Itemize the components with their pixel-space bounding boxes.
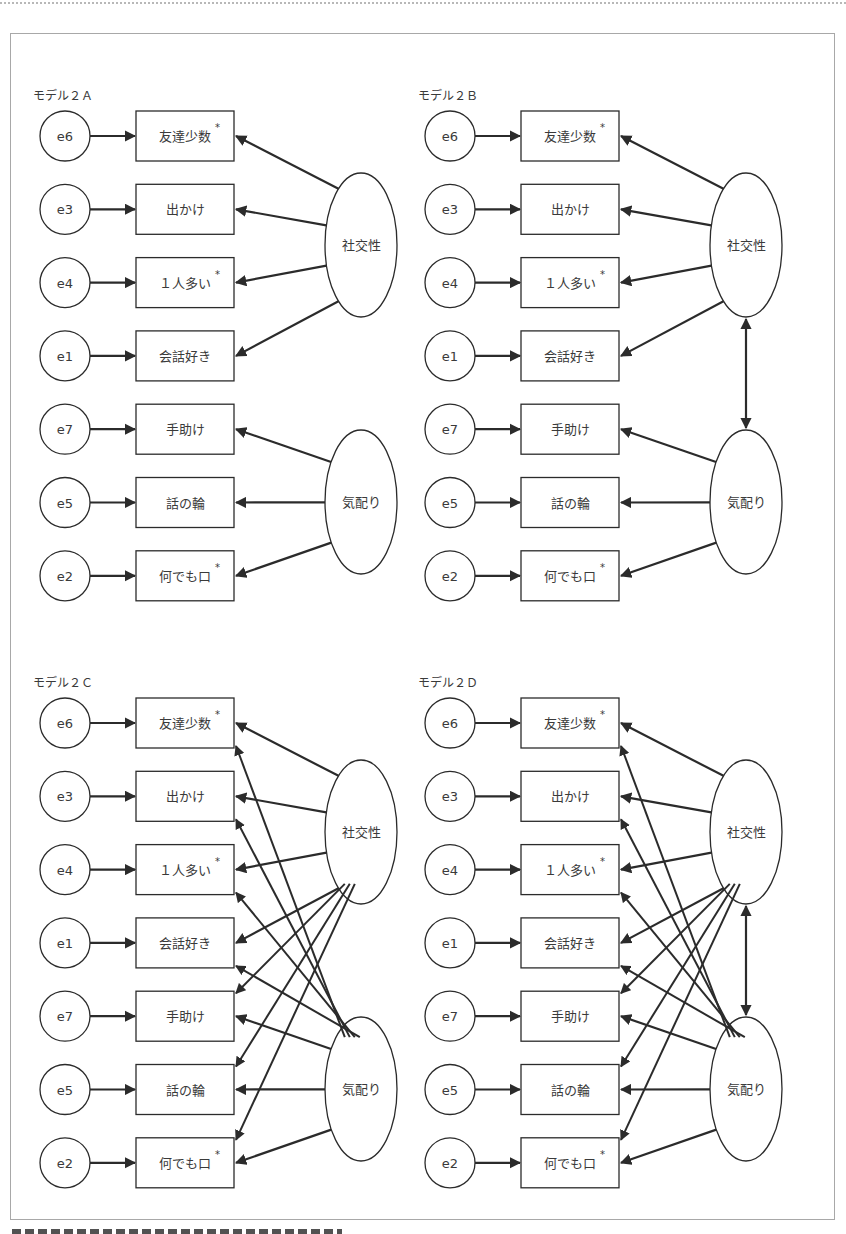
factor-loading-arrow xyxy=(236,301,338,356)
error-term-label: e5 xyxy=(57,1083,73,1098)
model-panel-a: モデル２Ａ社交性気配りe6友達少数*e3出かけe4１人多い*e1会話好きe7手助… xyxy=(33,88,397,601)
latent-factor-label: 社交性 xyxy=(342,825,381,840)
error-term-label: e4 xyxy=(57,276,73,291)
observed-variable-label: 出かけ xyxy=(166,789,205,804)
reversed-item-mark: * xyxy=(215,122,220,133)
observed-variable-label: 何でも口 xyxy=(159,569,211,584)
cross-loading-arrow xyxy=(621,746,730,1037)
error-term-label: e3 xyxy=(57,789,73,804)
observed-variable-label: 出かけ xyxy=(551,789,590,804)
panel-title: モデル２Ｃ xyxy=(33,675,93,690)
latent-factor-label: 社交性 xyxy=(727,825,766,840)
observed-variable-label: 会話好き xyxy=(544,936,596,951)
factor-loading-arrow xyxy=(236,266,327,283)
error-term-label: e6 xyxy=(57,129,73,144)
error-term-label: e4 xyxy=(442,863,458,878)
cross-loading-arrow xyxy=(621,893,740,1038)
latent-factor-label: 気配り xyxy=(342,1082,381,1097)
error-term-label: e2 xyxy=(57,1156,73,1171)
factor-loading-arrow xyxy=(236,723,338,776)
reversed-item-mark: * xyxy=(600,709,605,720)
observed-variable-label: 友達少数 xyxy=(159,129,211,144)
cross-loading-arrow xyxy=(236,893,355,1038)
observed-variable-label: 友達少数 xyxy=(544,129,596,144)
observed-variable-label: 話の輪 xyxy=(166,1083,205,1098)
factor-loading-arrow xyxy=(621,796,711,812)
reversed-item-mark: * xyxy=(600,562,605,573)
observed-variable-label: １人多い xyxy=(544,863,596,878)
reversed-item-mark: * xyxy=(215,1149,220,1160)
observed-variable-label: 何でも口 xyxy=(544,1156,596,1171)
reversed-item-mark: * xyxy=(215,269,220,280)
error-term-label: e4 xyxy=(57,863,73,878)
error-term-label: e1 xyxy=(57,349,73,364)
panel-title: モデル２Ｄ xyxy=(418,675,478,690)
error-term-label: e1 xyxy=(442,349,458,364)
observed-variable-label: 話の輪 xyxy=(166,496,205,511)
factor-loading-arrow xyxy=(621,136,723,189)
factor-loading-arrow xyxy=(236,209,326,225)
error-term-label: e7 xyxy=(57,422,73,437)
figure-caption-clipped xyxy=(12,1229,342,1234)
latent-factor-label: 社交性 xyxy=(342,238,381,253)
factor-loading-arrow xyxy=(621,723,723,776)
error-term-label: e6 xyxy=(442,716,458,731)
error-term-label: e7 xyxy=(442,422,458,437)
reversed-item-mark: * xyxy=(600,1149,605,1160)
error-term-label: e7 xyxy=(57,1009,73,1024)
error-term-label: e1 xyxy=(57,936,73,951)
observed-variable-label: 手助け xyxy=(551,1009,590,1024)
observed-variable-label: 会話好き xyxy=(159,349,211,364)
sem-model-diagrams: モデル２Ａ社交性気配りe6友達少数*e3出かけe4１人多い*e1会話好きe7手助… xyxy=(0,0,846,1234)
latent-factor-label: 気配り xyxy=(727,1082,766,1097)
latent-factor-label: 社交性 xyxy=(727,238,766,253)
model-panel-d: モデル２Ｄ社交性気配りe6友達少数*e3出かけe4１人多い*e1会話好きe7手助… xyxy=(418,675,782,1188)
cross-loading-arrow xyxy=(236,966,360,1037)
reversed-item-mark: * xyxy=(600,122,605,133)
observed-variable-label: 会話好き xyxy=(544,349,596,364)
model-panel-b: モデル２Ｂ社交性気配りe6友達少数*e3出かけe4１人多い*e1会話好きe7手助… xyxy=(418,88,782,601)
error-term-label: e5 xyxy=(442,1083,458,1098)
error-term-label: e7 xyxy=(442,1009,458,1024)
observed-variable-label: １人多い xyxy=(159,276,211,291)
observed-variable-label: 友達少数 xyxy=(544,716,596,731)
factor-loading-arrow xyxy=(621,1130,716,1163)
observed-variable-label: 出かけ xyxy=(166,202,205,217)
factor-loading-arrow xyxy=(621,429,716,462)
observed-variable-label: 話の輪 xyxy=(551,496,590,511)
observed-variable-label: 話の輪 xyxy=(551,1083,590,1098)
factor-loading-arrow xyxy=(621,266,712,283)
reversed-item-mark: * xyxy=(215,709,220,720)
error-term-label: e3 xyxy=(57,202,73,217)
factor-loading-arrow xyxy=(236,796,326,812)
observed-variable-label: １人多い xyxy=(159,863,211,878)
error-term-label: e1 xyxy=(442,936,458,951)
error-term-label: e6 xyxy=(57,716,73,731)
factor-loading-arrow xyxy=(236,429,331,462)
factor-loading-arrow xyxy=(621,888,723,943)
factor-loading-arrow xyxy=(236,1130,331,1163)
error-term-label: e6 xyxy=(442,129,458,144)
factor-loading-arrow xyxy=(621,209,711,225)
observed-variable-label: 何でも口 xyxy=(544,569,596,584)
factor-loading-arrow xyxy=(236,136,338,189)
error-term-label: e2 xyxy=(442,1156,458,1171)
observed-variable-label: 会話好き xyxy=(159,936,211,951)
error-term-label: e3 xyxy=(442,202,458,217)
latent-factor-label: 気配り xyxy=(342,495,381,510)
error-term-label: e5 xyxy=(57,496,73,511)
reversed-item-mark: * xyxy=(600,269,605,280)
model-panel-c: モデル２Ｃ社交性気配りe6友達少数*e3出かけe4１人多い*e1会話好きe7手助… xyxy=(33,675,397,1188)
error-term-label: e2 xyxy=(442,569,458,584)
reversed-item-mark: * xyxy=(600,856,605,867)
reversed-item-mark: * xyxy=(215,856,220,867)
error-term-label: e5 xyxy=(442,496,458,511)
observed-variable-label: 出かけ xyxy=(551,202,590,217)
observed-variable-label: 手助け xyxy=(166,1009,205,1024)
observed-variable-label: 手助け xyxy=(551,422,590,437)
cross-loading-arrow xyxy=(621,966,745,1037)
error-term-label: e4 xyxy=(442,276,458,291)
panel-title: モデル２Ａ xyxy=(33,88,93,103)
observed-variable-label: 何でも口 xyxy=(159,1156,211,1171)
error-term-label: e3 xyxy=(442,789,458,804)
